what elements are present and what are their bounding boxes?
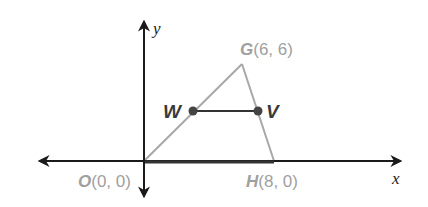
vertex-label-o: O(0, 0) [78, 172, 131, 191]
point-label-v: V [266, 101, 280, 122]
point-v [254, 107, 263, 116]
vertex-o-coords: (0, 0) [91, 172, 131, 191]
point-w [189, 107, 198, 116]
vertex-h-name: H [246, 172, 259, 191]
vertex-label-g: G(6, 6) [240, 40, 293, 59]
vertex-g-coords: (6, 6) [253, 40, 293, 59]
vertex-g-name: G [240, 40, 253, 59]
coordinate-plane-diagram: y x G(6, 6) O(0, 0) H(8, 0) W V [0, 0, 428, 207]
vertex-h-coords: (8, 0) [258, 172, 298, 191]
vertex-o-name: O [78, 172, 91, 191]
x-axis-label: x [391, 169, 400, 188]
vertex-label-h: H(8, 0) [246, 172, 298, 191]
y-axis-label: y [151, 19, 161, 38]
point-label-w: W [163, 101, 183, 122]
